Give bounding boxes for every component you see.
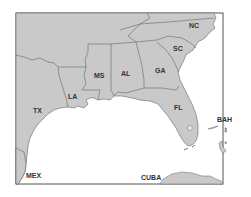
label-mex: MEX bbox=[26, 172, 42, 179]
label-la: LA bbox=[68, 93, 77, 100]
label-bah: BAH bbox=[217, 116, 232, 123]
label-nc: NC bbox=[189, 22, 199, 29]
label-tx: TX bbox=[33, 107, 42, 114]
label-fl: FL bbox=[174, 104, 183, 111]
label-ms: MS bbox=[94, 72, 105, 79]
label-cuba: CUBA bbox=[141, 174, 161, 181]
label-ga: GA bbox=[155, 67, 166, 74]
label-al: AL bbox=[121, 70, 131, 77]
lake-okeechobee bbox=[188, 126, 193, 131]
label-sc: SC bbox=[173, 45, 183, 52]
map: NC SC GA AL MS LA TX FL BAH MEX CUBA bbox=[0, 0, 251, 197]
